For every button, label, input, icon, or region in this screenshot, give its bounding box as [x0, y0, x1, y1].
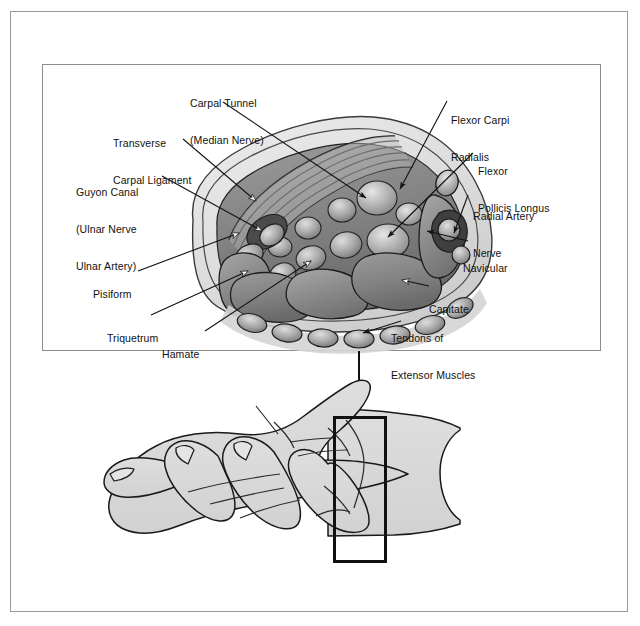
cross-section-illustration: Carpal Tunnel (Median Nerve) Transverse … — [43, 65, 602, 352]
label-navicular: Navicular — [463, 238, 508, 299]
detail-panel: Carpal Tunnel (Median Nerve) Transverse … — [42, 64, 601, 351]
label-triquetrum: Triquetrum — [107, 308, 158, 369]
hand-group — [104, 380, 460, 536]
figure-root: Carpal Tunnel (Median Nerve) Transverse … — [0, 0, 640, 626]
label-carpal-tunnel: Carpal Tunnel (Median Nerve) — [190, 73, 264, 171]
label-carpal-tunnel-line2: (Median Nerve) — [190, 134, 264, 146]
label-tendons-extensor-line1: Tendons of — [391, 332, 475, 344]
tendon — [295, 217, 321, 239]
label-guyon-canal-line2: (Ulnar Nerve — [76, 223, 138, 235]
roi-box — [333, 416, 387, 563]
median-nerve — [396, 203, 422, 225]
label-pisiform-line1: Pisiform — [93, 288, 132, 300]
label-triquetrum-line1: Triquetrum — [107, 332, 158, 344]
tendon — [328, 198, 356, 222]
label-flexor-carpi-radialis-line1: Flexor Carpi — [451, 114, 509, 126]
label-flexor-pollicis-longus-line1: Flexor — [478, 165, 550, 177]
label-radial-artery-nerve-line1: Radial Artery — [473, 210, 534, 222]
tendon — [357, 181, 397, 215]
label-transverse-carpal-ligament-line1: Transverse — [113, 137, 192, 149]
label-guyon-canal-line1: Guyon Canal — [76, 186, 138, 198]
label-hamate-line1: Hamate — [162, 348, 199, 360]
hand-illustration — [28, 368, 478, 600]
label-carpal-tunnel-line1: Carpal Tunnel — [190, 97, 264, 109]
label-navicular-line1: Navicular — [463, 262, 508, 274]
